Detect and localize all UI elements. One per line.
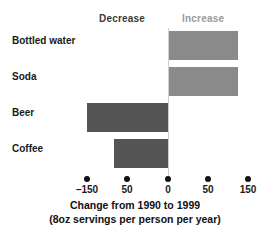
tick-label-1: –150 [67,184,107,195]
tick-dot-1 [84,176,90,182]
legend-label-increase: Increase [182,13,224,24]
axis-title-line-2: (8oz servings per person per year) [0,213,270,225]
tick-dot-4 [205,176,211,182]
x-axis: –150 50 0 50 150 Change from 1990 to 199… [0,173,270,241]
legend-label-decrease: Decrease [99,13,145,24]
plot-area: Bottled water Soda Beer Coffee [0,28,270,173]
tick-label-4: 50 [188,184,228,195]
tick-dot-3 [165,176,171,182]
beverage-change-bar-chart: Decrease Increase Bottled water Soda Bee… [0,0,270,241]
tick-dot-2 [124,176,130,182]
bar-bottled-water [169,31,238,60]
tick-label-5: 150 [228,184,268,195]
tick-dot-5 [245,176,251,182]
category-label-beer: Beer [12,107,34,118]
tick-label-2: 50 [107,184,147,195]
axis-title-line-1: Change from 1990 to 1999 [0,199,270,211]
category-label-bottled-water: Bottled water [12,35,75,46]
tick-label-3: 0 [148,184,188,195]
bar-beer [87,103,168,132]
category-label-coffee: Coffee [12,143,43,154]
bar-soda [169,67,238,96]
category-label-soda: Soda [12,71,36,82]
bar-coffee [114,139,168,168]
